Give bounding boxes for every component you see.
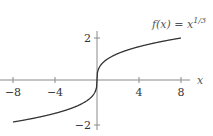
- function-label-exponent: 1/3: [193, 16, 206, 25]
- x-tick-label: −8: [5, 86, 21, 99]
- x-tick-label: −4: [47, 86, 63, 99]
- y-tick-label: −2: [75, 119, 91, 132]
- x-tick-label: 4: [136, 86, 143, 99]
- function-label: f(x) = x1/3: [151, 16, 206, 31]
- x-tick-label: 8: [178, 86, 185, 99]
- x-axis-label: x: [197, 74, 204, 87]
- y-tick-label: 2: [84, 32, 91, 45]
- chart: −8 −4 4 8 2 −2 x f(x) = x1/3: [0, 0, 213, 136]
- function-label-main: f(x) = x: [151, 18, 194, 31]
